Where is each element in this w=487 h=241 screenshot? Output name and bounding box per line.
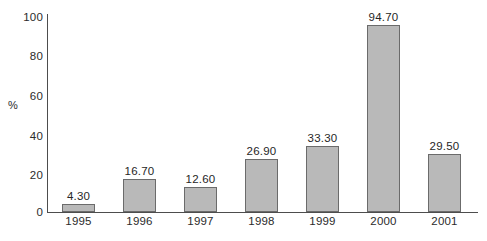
bar[interactable]: [428, 154, 461, 212]
bar-group: 94.70: [353, 14, 414, 212]
y-tick-label: 40: [5, 130, 43, 142]
bar-group: 4.30: [48, 14, 109, 212]
x-axis-line: [47, 212, 478, 213]
y-tick-label: 0: [5, 206, 43, 218]
x-axis-tick-labels: 1995199619971998199920002001: [48, 215, 478, 235]
bar-group: 16.70: [109, 14, 170, 212]
bar-group: 12.60: [170, 14, 231, 212]
bar-group: 26.90: [231, 14, 292, 212]
bar[interactable]: [245, 159, 278, 212]
bar[interactable]: [306, 146, 339, 212]
plot-area: 4.3016.7012.6026.9033.3094.7029.50: [48, 14, 478, 212]
x-tick-label: 1996: [109, 215, 170, 227]
x-tick-label: 2001: [414, 215, 475, 227]
y-tick-label: 60: [5, 90, 43, 102]
bar-value-label: 29.50: [410, 140, 479, 152]
bar-value-label: 94.70: [349, 11, 418, 23]
x-tick-label: 2000: [353, 215, 414, 227]
bar[interactable]: [62, 204, 95, 213]
bar[interactable]: [123, 179, 156, 212]
bar-group: 29.50: [414, 14, 475, 212]
x-tick-label: 1995: [48, 215, 109, 227]
bar-value-label: 12.60: [166, 173, 235, 185]
bar[interactable]: [184, 187, 217, 212]
bar-value-label: 4.30: [44, 190, 113, 202]
bar[interactable]: [367, 25, 400, 213]
bar-value-label: 16.70: [105, 165, 174, 177]
bar-group: 33.30: [292, 14, 353, 212]
bar-value-label: 26.90: [227, 145, 296, 157]
y-tick-label: 100: [5, 11, 43, 23]
y-tick-label: 80: [5, 50, 43, 62]
x-tick-label: 1999: [292, 215, 353, 227]
bar-value-label: 33.30: [288, 132, 357, 144]
y-axis-tick-labels: 100 80 60 40 20 0: [0, 0, 43, 241]
x-tick-label: 1997: [170, 215, 231, 227]
bar-chart: % 100 80 60 40 20 0 4.3016.7012.6026.903…: [0, 0, 487, 241]
y-tick-label: 20: [5, 169, 43, 181]
x-tick-label: 1998: [231, 215, 292, 227]
